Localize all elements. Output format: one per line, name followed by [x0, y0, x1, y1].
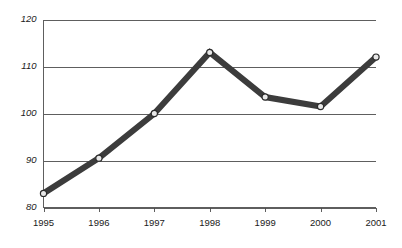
x-tick-label-1996: 1996 [88, 217, 109, 228]
x-tick-label-1998: 1998 [199, 217, 220, 228]
data-point-2000 [317, 103, 323, 109]
data-point-1995 [40, 190, 46, 196]
y-tick-label-80: 80 [26, 201, 37, 212]
data-point-1999 [262, 94, 268, 100]
y-tick-label-110: 110 [21, 60, 37, 71]
chart-canvas: 8090100110120 19951996199719981999200020… [0, 0, 402, 248]
y-tick-label-120: 120 [21, 13, 38, 24]
data-point-1998 [207, 49, 213, 55]
x-tick-label-2000: 2000 [310, 217, 331, 228]
x-tick-label-1997: 1997 [144, 217, 165, 228]
x-tick-label-1995: 1995 [33, 217, 54, 228]
chart-background [0, 0, 402, 248]
x-tick-label-1999: 1999 [255, 217, 276, 228]
data-point-1997 [151, 110, 157, 116]
x-tick-label-2001: 2001 [365, 217, 386, 228]
y-tick-label-90: 90 [26, 154, 37, 165]
y-tick-label-100: 100 [21, 107, 38, 118]
data-point-1996 [96, 155, 102, 161]
data-point-2001 [373, 54, 379, 60]
line-chart-figure: 8090100110120 19951996199719981999200020… [0, 0, 402, 248]
